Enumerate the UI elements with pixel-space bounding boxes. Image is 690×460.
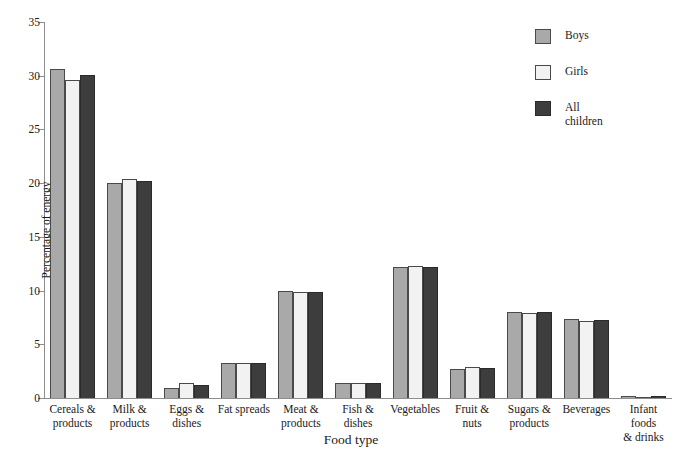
bar[interactable] xyxy=(408,266,423,398)
bar-group xyxy=(215,22,272,398)
bar[interactable] xyxy=(651,396,666,398)
category-label-line2: products xyxy=(273,416,328,430)
category-label-line1: Meat & xyxy=(283,403,318,415)
bar[interactable] xyxy=(450,369,465,398)
bar[interactable] xyxy=(80,75,95,398)
bar[interactable] xyxy=(594,320,609,398)
legend-swatch-icon xyxy=(535,65,551,80)
bar-group-bars xyxy=(387,22,444,398)
bar[interactable] xyxy=(278,291,293,398)
y-tick-label: 0 xyxy=(34,390,40,406)
category-label-line2: dishes xyxy=(330,416,385,430)
category-label-line2: products xyxy=(502,416,557,430)
bar-group-bars xyxy=(215,22,272,398)
category-label-line1: Sugars & xyxy=(508,403,551,415)
bar-group xyxy=(387,22,444,398)
category-label-line1: Fish & xyxy=(342,403,374,415)
bar-group xyxy=(44,22,101,398)
category-label-line2: products xyxy=(102,416,157,430)
category-label-line1: Eggs & xyxy=(169,403,204,415)
legend-label: Girls xyxy=(565,64,588,78)
bar[interactable] xyxy=(122,179,137,398)
legend-swatch-icon xyxy=(535,101,551,116)
legend-item[interactable]: Girls xyxy=(535,64,675,80)
bar-group-bars xyxy=(101,22,158,398)
x-axis-title-text: Food type xyxy=(312,432,378,447)
category-label-line1: Fat spreads xyxy=(218,403,270,415)
bar-group-bars xyxy=(272,22,329,398)
bar-group xyxy=(101,22,158,398)
bar[interactable] xyxy=(636,397,651,398)
legend-item[interactable]: All children xyxy=(535,100,675,128)
category-label-line1: Milk & xyxy=(113,403,147,415)
bar[interactable] xyxy=(393,267,408,398)
category-label-line1: Beverages xyxy=(562,403,610,415)
category-label-line1: Vegetables xyxy=(390,403,440,415)
y-tick-label: 30 xyxy=(29,68,41,84)
bar-group xyxy=(444,22,501,398)
bar[interactable] xyxy=(164,388,179,398)
legend-label: All children xyxy=(565,100,603,128)
bar[interactable] xyxy=(194,385,209,398)
bar[interactable] xyxy=(366,383,381,398)
bar[interactable] xyxy=(221,363,236,398)
bar[interactable] xyxy=(251,363,266,398)
bar[interactable] xyxy=(65,80,80,398)
category-label-line2: dishes xyxy=(159,416,214,430)
bar-group-bars xyxy=(44,22,101,398)
category-label-line2: products xyxy=(45,416,100,430)
bar-group xyxy=(272,22,329,398)
y-tick-label: 20 xyxy=(29,175,41,191)
legend-item[interactable]: Boys xyxy=(535,28,675,44)
bar[interactable] xyxy=(465,367,480,398)
bar-group-bars xyxy=(329,22,386,398)
bar[interactable] xyxy=(507,312,522,398)
bar-group xyxy=(329,22,386,398)
legend-swatch-icon xyxy=(535,29,551,44)
legend-label: Boys xyxy=(565,28,589,42)
bar[interactable] xyxy=(107,183,122,398)
bar-group-bars xyxy=(444,22,501,398)
category-label-line1: Fruit & nuts xyxy=(455,403,489,429)
bar[interactable] xyxy=(579,321,594,398)
category-label-line1: Infant foods xyxy=(630,403,657,429)
bar-group-bars xyxy=(158,22,215,398)
bar[interactable] xyxy=(335,383,350,398)
x-axis-line xyxy=(44,398,672,399)
category-label-line1: Cereals & xyxy=(49,403,95,415)
bar[interactable] xyxy=(522,313,537,398)
bar[interactable] xyxy=(308,292,323,398)
y-tick-label: 10 xyxy=(29,283,41,299)
y-tick-label: 35 xyxy=(29,14,41,30)
bar[interactable] xyxy=(537,312,552,398)
bar-group xyxy=(158,22,215,398)
bar[interactable] xyxy=(50,69,65,398)
bar[interactable] xyxy=(621,396,636,398)
bar[interactable] xyxy=(351,383,366,398)
bar[interactable] xyxy=(293,292,308,398)
bar[interactable] xyxy=(179,383,194,398)
y-tick-label: 25 xyxy=(29,121,41,137)
bar[interactable] xyxy=(564,319,579,398)
bar[interactable] xyxy=(423,267,438,398)
x-axis-title: Food type xyxy=(0,432,690,448)
bar[interactable] xyxy=(480,368,495,398)
bar[interactable] xyxy=(236,363,251,398)
y-tick-label: 5 xyxy=(34,336,40,352)
y-tick-label: 15 xyxy=(29,229,41,245)
chart-legend: BoysGirlsAll children xyxy=(535,28,675,148)
bar-chart: 05101520253035 Percentage of energy Cere… xyxy=(0,0,690,460)
bar[interactable] xyxy=(137,181,152,398)
